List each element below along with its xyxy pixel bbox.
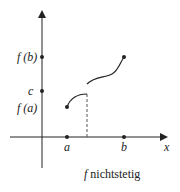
caption: f nichtstetig xyxy=(84,167,140,182)
point-fa-on-curve xyxy=(65,105,69,109)
label-fb: f (b) xyxy=(17,50,37,65)
label-b: b xyxy=(121,140,127,155)
label-x: x xyxy=(164,140,169,155)
caption-f: f xyxy=(84,167,87,181)
point-a xyxy=(65,135,69,139)
point-c xyxy=(40,89,44,93)
curve-left-segment xyxy=(67,94,87,107)
point-fb-on-curve xyxy=(122,55,126,59)
label-a: a xyxy=(64,140,70,155)
label-fa: f (a) xyxy=(17,101,37,116)
diagram-canvas xyxy=(0,0,180,192)
point-fb xyxy=(40,55,44,59)
curve-right-segment xyxy=(87,57,124,84)
label-c: c xyxy=(28,84,33,99)
caption-text: nichtstetig xyxy=(90,167,140,181)
point-b xyxy=(122,135,126,139)
